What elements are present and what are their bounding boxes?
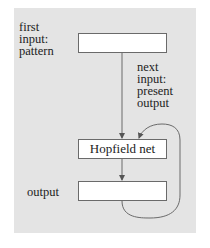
connector-lines: [0, 0, 210, 248]
output-label: output: [27, 186, 59, 198]
output-box: [78, 181, 167, 201]
hopfield-net-box: Hopfield net: [78, 139, 167, 159]
